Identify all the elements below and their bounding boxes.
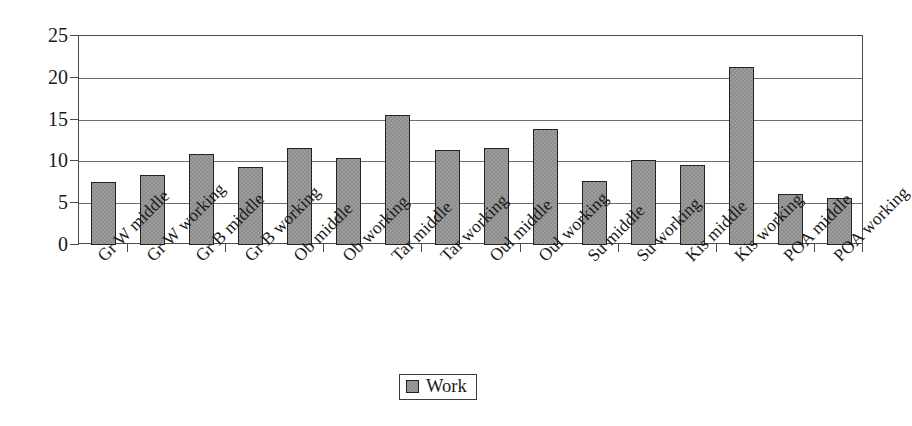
- x-tick-mark: [814, 244, 815, 252]
- legend-swatch-work-icon: [406, 380, 419, 393]
- x-tick-mark: [716, 244, 717, 252]
- y-tick-mark-0: [70, 244, 79, 245]
- chart-legend: Work: [399, 374, 477, 400]
- y-tick-label-10: 10: [20, 150, 68, 170]
- x-tick-mark: [618, 244, 619, 252]
- legend-label-work: Work: [426, 377, 467, 396]
- x-tick-mark: [520, 244, 521, 252]
- y-tick-label-20: 20: [20, 67, 68, 87]
- y-tick-label-15: 15: [20, 109, 68, 129]
- y-tick-label-25: 25: [20, 25, 68, 45]
- y-tick-label-0: 0: [20, 234, 68, 254]
- y-tick-label-5: 5: [20, 192, 68, 212]
